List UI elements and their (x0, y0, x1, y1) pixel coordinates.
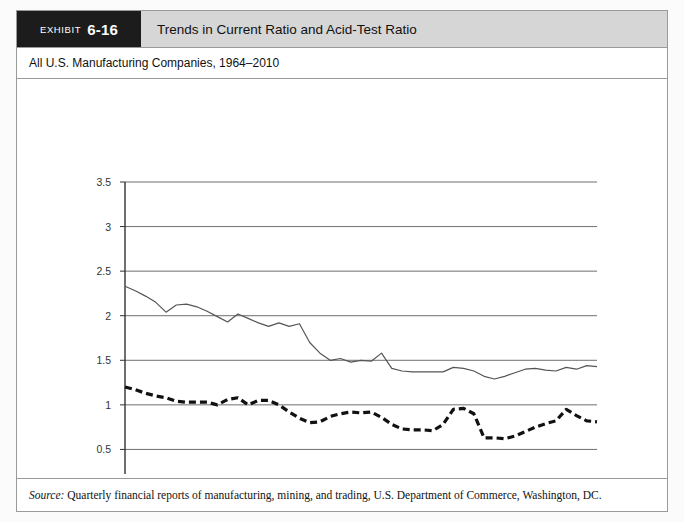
exhibit-label: EXHIBIT (40, 24, 81, 35)
y-axis-tick-label: 2 (105, 310, 111, 322)
series-current-ratio (125, 286, 597, 379)
exhibit-subtitle: All U.S. Manufacturing Companies, 1964–2… (17, 48, 667, 79)
y-axis-tick-label: 1.5 (96, 354, 111, 366)
exhibit-page: EXHIBIT 6-16 Trends in Current Ratio and… (0, 0, 684, 522)
exhibit-header: EXHIBIT 6-16 Trends in Current Ratio and… (17, 11, 667, 48)
source-label: Source: (29, 489, 64, 501)
chart-svg: 00.511.522.533.5196419671969197119731975… (17, 79, 667, 474)
exhibit-number: 6-16 (87, 21, 118, 38)
exhibit-badge: EXHIBIT 6-16 (17, 11, 141, 47)
source-note: Source: Quarterly financial reports of m… (29, 489, 602, 501)
chart-container: 00.511.522.533.5196419671969197119731975… (17, 79, 667, 474)
y-axis-tick-label: 2.5 (96, 265, 111, 277)
line-chart: 00.511.522.533.5196419671969197119731975… (17, 79, 667, 474)
source-text: Quarterly financial reports of manufactu… (64, 489, 601, 501)
series-acid-test-ratio (125, 387, 597, 439)
y-axis-tick-label: 3.5 (96, 176, 111, 188)
y-axis-tick-label: 0.5 (96, 443, 111, 455)
y-axis-tick-label: 3 (105, 221, 111, 233)
exhibit-frame: EXHIBIT 6-16 Trends in Current Ratio and… (16, 10, 668, 512)
page-title: Trends in Current Ratio and Acid-Test Ra… (157, 11, 417, 47)
source-footer: Source: Quarterly financial reports of m… (17, 478, 667, 511)
y-axis-tick-label: 1 (105, 399, 111, 411)
